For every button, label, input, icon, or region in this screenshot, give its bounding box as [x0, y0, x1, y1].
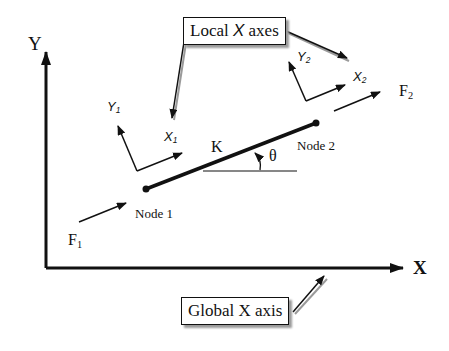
force-1-arrow [79, 203, 126, 222]
node-1-label: Node 1 [135, 207, 173, 220]
local-axes-2 [289, 62, 345, 101]
local-y1-label: Y1 [107, 100, 120, 115]
angle-label: θ [269, 148, 277, 164]
local-y2-label: Y2 [297, 50, 310, 65]
local-x1-label: X1 [164, 130, 177, 145]
stiffness-label: K [211, 139, 223, 155]
local-x2-label: X2 [353, 70, 366, 85]
node-2-label: Node 2 [297, 139, 335, 152]
global-y-label: Y [28, 34, 42, 53]
callout-italic-x: X [233, 21, 244, 40]
force-2-label: F2 [399, 83, 413, 101]
callout-prefix: Local [190, 21, 233, 40]
local-axes-callout: Local X axes [183, 17, 286, 45]
callout-suffix: axes [244, 21, 278, 40]
force-1-label: F1 [68, 232, 82, 250]
global-x-label: X [413, 258, 427, 277]
node-2-dot [313, 120, 320, 127]
force-2-arrow [334, 92, 380, 111]
global-callout-leader [293, 276, 327, 314]
node-1-dot [143, 186, 150, 193]
global-axis-callout: Global X axis [181, 297, 289, 325]
